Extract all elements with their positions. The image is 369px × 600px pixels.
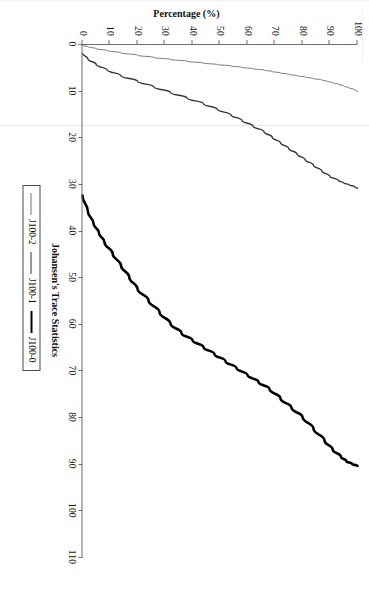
x-tick-mark <box>78 557 82 558</box>
x-tick-label: 90 <box>66 459 76 469</box>
y-axis-line <box>81 44 357 45</box>
x-tick-mark <box>78 277 82 278</box>
y-tick-mark <box>219 40 220 44</box>
x-tick-mark <box>78 324 82 325</box>
y-tick-label: 40 <box>187 26 197 36</box>
x-tick-mark <box>78 370 82 371</box>
chart-figure: .......................... 0102030405060… <box>0 0 369 600</box>
x-tick-mark <box>78 231 82 232</box>
x-tick-mark <box>78 510 82 511</box>
y-tick-label: 90 <box>325 26 335 36</box>
x-tick-label: 0 <box>66 42 76 47</box>
series-line-j100-0 <box>82 196 357 466</box>
x-tick-mark <box>78 464 82 465</box>
y-tick-mark <box>274 40 275 44</box>
legend-label: J100-0 <box>26 337 36 363</box>
legend-swatch-icon <box>30 311 32 333</box>
series-line-j100-2 <box>82 45 357 91</box>
x-tick-label: 40 <box>66 226 76 236</box>
y-tick-label: 0 <box>77 31 87 36</box>
x-tick-mark <box>78 91 82 92</box>
y-tick-mark <box>164 40 165 44</box>
legend-label: J100-2 <box>26 219 36 245</box>
legend-entry-j100-2: J100-2 <box>26 193 36 245</box>
y-tick-label: 50 <box>215 26 225 36</box>
y-tick-mark <box>136 40 137 44</box>
y-tick-mark <box>356 40 357 44</box>
x-axis-title: Johansen's Trace Statistics <box>49 243 60 357</box>
x-tick-mark <box>78 184 82 185</box>
x-tick-mark <box>78 137 82 138</box>
y-tick-label: 10 <box>105 26 115 36</box>
x-tick-label: 50 <box>66 272 76 282</box>
x-tick-label: 100 <box>66 503 76 518</box>
x-tick-label: 20 <box>66 132 76 142</box>
y-tick-label: 30 <box>160 26 170 36</box>
x-tick-mark <box>78 44 82 45</box>
y-tick-mark <box>81 40 82 44</box>
x-axis-line <box>81 44 82 557</box>
x-tick-mark <box>78 417 82 418</box>
x-tick-label: 80 <box>66 412 76 422</box>
y-tick-label: 70 <box>270 26 280 36</box>
legend-swatch-icon <box>31 252 32 274</box>
x-tick-label: 30 <box>66 179 76 189</box>
x-tick-label: 10 <box>66 86 76 96</box>
series-line-j100-1 <box>82 53 357 188</box>
chart-legend: J100-2J100-1J100-0 <box>22 185 40 371</box>
y-tick-label: 60 <box>242 26 252 36</box>
x-tick-label: 60 <box>66 319 76 329</box>
x-tick-label: 70 <box>66 366 76 376</box>
y-tick-mark <box>191 40 192 44</box>
y-tick-mark <box>301 40 302 44</box>
legend-label: J100-1 <box>26 278 36 304</box>
legend-entry-j100-1: J100-1 <box>26 252 36 304</box>
x-tick-label: 110 <box>66 550 76 565</box>
rotated-page-stage: .......................... 0102030405060… <box>0 0 369 600</box>
y-tick-label: 20 <box>132 26 142 36</box>
legend-swatch-icon <box>31 193 32 215</box>
y-axis-title: Percentage (%) <box>153 8 219 19</box>
y-tick-label: 100 <box>352 21 362 36</box>
y-tick-mark <box>109 40 110 44</box>
y-tick-label: 80 <box>297 26 307 36</box>
y-tick-mark <box>329 40 330 44</box>
legend-entry-j100-0: J100-0 <box>26 311 36 363</box>
y-tick-mark <box>246 40 247 44</box>
